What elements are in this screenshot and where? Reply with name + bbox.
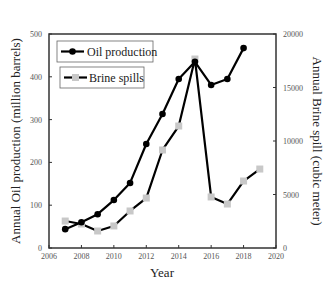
- legend-label-brine: Brine spills: [89, 71, 144, 85]
- data-point: [94, 227, 101, 234]
- x-axis-label: Year: [150, 265, 175, 280]
- x-tick-label: 2018: [236, 252, 252, 261]
- data-point: [256, 166, 263, 173]
- data-point: [175, 123, 182, 130]
- y-axis-right-label: Annual Brine spill (cubic meter): [310, 57, 325, 226]
- data-point: [159, 146, 166, 153]
- legend-item-oil: Oil production: [57, 41, 157, 62]
- x-tick-label: 2006: [41, 252, 57, 261]
- data-point: [192, 59, 199, 66]
- y-right-tick-label: 20000: [283, 30, 303, 39]
- data-point: [94, 211, 101, 218]
- square-marker-icon: [72, 74, 79, 81]
- legend-label-oil: Oil production: [87, 45, 157, 59]
- plot-area: [49, 34, 276, 248]
- y-left-tick-label: 300: [30, 116, 42, 125]
- data-point: [111, 197, 118, 204]
- legend-item-brine: Brine spills: [60, 67, 144, 88]
- y-axis-left-label: Annual Oil production (million barrels): [8, 38, 23, 244]
- data-point: [143, 141, 150, 148]
- y-left-tick-label: 0: [38, 244, 42, 253]
- dual-axis-line-chart: 20062008201020122014201620182020 0100200…: [0, 0, 330, 285]
- data-point: [62, 226, 69, 233]
- data-point: [143, 195, 150, 202]
- y-right-tick-label: 10000: [283, 137, 303, 146]
- data-point: [240, 178, 247, 185]
- data-point: [110, 222, 117, 229]
- y-left-tick-label: 200: [30, 158, 42, 167]
- data-point: [159, 111, 166, 118]
- data-point: [240, 45, 247, 52]
- data-point: [62, 218, 69, 225]
- x-tick-label: 2008: [73, 252, 89, 261]
- data-point: [127, 180, 134, 187]
- x-tick-label: 2016: [203, 252, 219, 261]
- data-point: [208, 82, 215, 89]
- data-point: [224, 76, 231, 83]
- data-point: [78, 219, 85, 226]
- y-left-tick-label: 100: [30, 201, 42, 210]
- x-tick-label: 2020: [268, 252, 284, 261]
- data-point: [127, 207, 134, 214]
- y-left-tick-label: 400: [30, 73, 42, 82]
- x-tick-label: 2012: [138, 252, 154, 261]
- data-point: [208, 193, 215, 200]
- y-right-tick-label: 15000: [283, 84, 303, 93]
- y-axis-right-ticks: 05000100001500020000: [273, 30, 303, 253]
- data-point: [175, 76, 182, 83]
- y-left-tick-label: 500: [30, 30, 42, 39]
- data-point: [224, 201, 231, 208]
- x-tick-label: 2014: [171, 252, 187, 261]
- legend: Oil production Brine spills: [57, 41, 157, 88]
- x-tick-label: 2010: [106, 252, 122, 261]
- y-right-tick-label: 5000: [283, 191, 299, 200]
- y-right-tick-label: 0: [283, 244, 287, 253]
- circle-marker-icon: [69, 48, 76, 55]
